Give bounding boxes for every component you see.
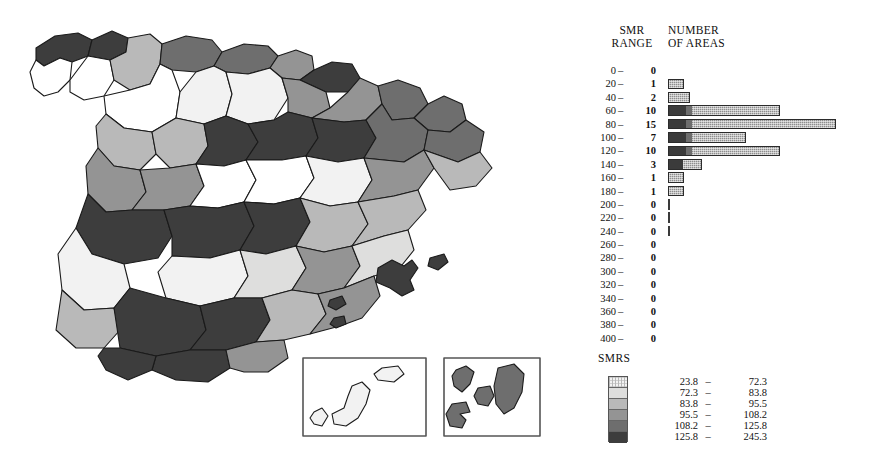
histogram-bar (668, 146, 780, 157)
histogram-range-label: 340 (560, 292, 616, 305)
histogram-range-dash: – (618, 144, 626, 157)
histogram-count-label: 0 (634, 265, 656, 278)
histogram-count-label: 15 (634, 118, 656, 131)
histogram-range-dash: – (618, 238, 626, 251)
histogram-bar (668, 105, 780, 116)
histogram-bar (668, 92, 690, 103)
legend-range-dash: – (703, 409, 713, 420)
histogram-row: 320–0 (560, 278, 876, 291)
legend-range-low: 72.3 (646, 387, 698, 398)
island-menorca (428, 254, 448, 270)
histogram-range-label: 240 (560, 225, 616, 238)
histogram-row: 160–1 (560, 171, 876, 184)
legend-range-dash: – (703, 398, 713, 409)
histogram-count-label: 0 (634, 292, 656, 305)
legend-range-row: 108.2–125.8 (646, 420, 821, 431)
legend-body: 23.8–72.372.3–83.883.8–95.595.5–108.2108… (598, 376, 828, 442)
histogram-row: 300–0 (560, 265, 876, 278)
histogram-count-label: 0 (634, 211, 656, 224)
histogram-row: 240–0 (560, 225, 876, 238)
region-galicia-se (70, 56, 114, 100)
legend-swatch (609, 421, 627, 432)
histogram-range-label: 220 (560, 211, 616, 224)
histogram-bar (668, 172, 684, 183)
histogram-range-label: 320 (560, 278, 616, 291)
histogram-header-number-of-areas: NUMBER OF AREAS (668, 24, 760, 50)
histogram-range-label: 120 (560, 144, 616, 157)
region-palencia (176, 66, 232, 124)
legend-range-low: 125.8 (646, 431, 698, 442)
histogram-count-label: 0 (634, 64, 656, 77)
legend-range-row: 23.8–72.3 (646, 376, 821, 387)
legend-range-low: 108.2 (646, 420, 698, 431)
legend-range-high: 245.3 (715, 431, 767, 442)
smr-histogram: SMR RANGE NUMBER OF AREAS 0–020–140–260–… (560, 22, 876, 342)
histogram-range-label: 300 (560, 265, 616, 278)
histogram-count-label: 3 (634, 158, 656, 171)
histogram-range-label: 20 (560, 77, 616, 90)
histogram-row: 400–0 (560, 332, 876, 345)
histogram-count-label: 0 (634, 318, 656, 331)
histogram-header-smr-range: SMR RANGE (598, 24, 666, 50)
legend-range-row: 95.5–108.2 (646, 409, 821, 420)
histogram-count-label: 0 (634, 225, 656, 238)
histogram-range-dash: – (618, 278, 626, 291)
histogram-row: 120–10 (560, 144, 876, 157)
histogram-count-label: 2 (634, 91, 656, 104)
legend-swatch (609, 410, 627, 421)
histogram-bar (668, 186, 684, 197)
map-svg (0, 0, 545, 475)
histogram-range-label: 100 (560, 131, 616, 144)
legend-swatch (609, 432, 627, 443)
histogram-rows: 0–020–140–260–1080–15100–7120–10140–3160… (560, 64, 876, 345)
histogram-range-label: 0 (560, 64, 616, 77)
histogram-row: 140–3 (560, 158, 876, 171)
legend-range-dash: – (703, 420, 713, 431)
histogram-range-dash: – (618, 131, 626, 144)
histogram-row: 80–15 (560, 118, 876, 131)
histogram-range-dash: – (618, 91, 626, 104)
legend-range-high: 125.8 (715, 420, 767, 431)
histogram-row: 220–0 (560, 211, 876, 224)
histogram-range-dash: – (618, 225, 626, 238)
region-malaga (152, 350, 230, 382)
legend-swatch-column (608, 376, 628, 442)
histogram-row: 340–0 (560, 292, 876, 305)
histogram-row: 200–0 (560, 198, 876, 211)
histogram-range-label: 400 (560, 332, 616, 345)
histogram-bar (668, 119, 836, 130)
histogram-bar (668, 79, 684, 90)
histogram-range-dash: – (618, 251, 626, 264)
legend-range-dash: – (703, 376, 713, 387)
histogram-range-label: 80 (560, 118, 616, 131)
legend-range-dash: – (703, 431, 713, 442)
histogram-zero-baseline (668, 212, 670, 223)
legend-range-high: 83.8 (715, 387, 767, 398)
histogram-row: 180–1 (560, 185, 876, 198)
histogram-bar (668, 132, 746, 143)
legend-range-dash: – (703, 387, 713, 398)
histogram-range-dash: – (618, 171, 626, 184)
histogram-count-label: 1 (634, 185, 656, 198)
histogram-range-dash: – (618, 292, 626, 305)
histogram-range-dash: – (618, 158, 626, 171)
legend-swatch (609, 388, 627, 399)
histogram-count-label: 0 (634, 305, 656, 318)
legend-title: SMRS (598, 352, 828, 364)
histogram-row: 360–0 (560, 305, 876, 318)
legend-label-column: 23.8–72.372.3–83.883.8–95.595.5–108.2108… (646, 376, 821, 442)
histogram-headers: SMR RANGE NUMBER OF AREAS (560, 22, 876, 62)
legend-range-row: 125.8–245.3 (646, 431, 821, 442)
legend-range-row: 72.3–83.8 (646, 387, 821, 398)
histogram-range-label: 160 (560, 171, 616, 184)
histogram-zero-baseline (668, 199, 670, 210)
histogram-row: 260–0 (560, 238, 876, 251)
histogram-count-label: 0 (634, 278, 656, 291)
histogram-range-dash: – (618, 198, 626, 211)
island-mallorca (376, 260, 418, 296)
histogram-range-dash: – (618, 318, 626, 331)
histogram-row: 100–7 (560, 131, 876, 144)
histogram-zero-baseline (668, 226, 670, 237)
histogram-range-label: 360 (560, 305, 616, 318)
histogram-range-label: 40 (560, 91, 616, 104)
